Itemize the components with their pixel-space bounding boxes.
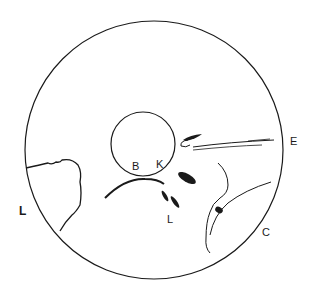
streak-line-1 [193,140,274,147]
left-blob-outline [26,160,81,231]
label-c: C [262,226,270,238]
label-lower-l: L [167,213,173,225]
dark-oval-particle [176,170,197,187]
microscope-field-diagram: L B K L E C [0,0,319,296]
spindle-particle-2 [169,195,180,209]
inner-cell-circle [111,112,175,176]
spindle-particle-1 [160,190,169,202]
label-b: B [132,160,139,172]
label-k: K [156,158,164,170]
lower-arc [105,179,164,198]
label-left-l: L [19,204,26,218]
small-loop [181,140,190,147]
field-of-view-circle [25,21,283,279]
label-e: E [290,135,297,147]
